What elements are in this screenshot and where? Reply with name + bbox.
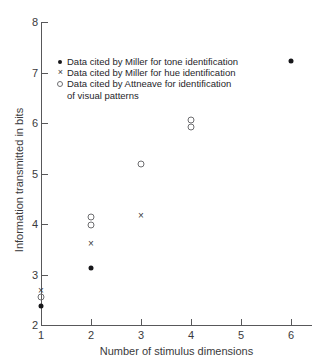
x-axis-title: Number of stimulus dimensions — [41, 345, 312, 357]
x-axis-line — [41, 325, 312, 326]
x-tick — [241, 319, 242, 325]
data-point-open-circle — [38, 294, 45, 301]
chart-legend: Data cited by Miller for tone identifica… — [57, 56, 238, 101]
x-tick-label: 2 — [81, 330, 101, 341]
y-tick — [42, 22, 48, 23]
y-tick-label: 8 — [8, 17, 38, 28]
data-point-cross — [87, 239, 96, 248]
scatter-chart-figure: 2345678 123456 Data cited by Miller for … — [0, 0, 319, 363]
x-tick-label: 6 — [281, 330, 301, 341]
data-point-open-circle — [88, 214, 95, 221]
legend-entry: Data cited by Attneave for identificatio… — [57, 78, 238, 89]
x-tick — [141, 319, 142, 325]
data-point-open-circle — [88, 222, 95, 229]
y-tick — [42, 73, 48, 74]
legend-marker-filled-circle-icon — [57, 56, 67, 67]
data-point-filled-circle — [39, 303, 44, 308]
legend-label-continuation: of visual patterns — [57, 90, 238, 101]
x-tick-label: 4 — [181, 330, 201, 341]
y-tick — [42, 325, 48, 326]
legend-label: Data cited by Miller for hue identificat… — [67, 67, 235, 78]
y-tick — [42, 174, 48, 175]
y-tick-label: 7 — [8, 68, 38, 79]
data-point-open-circle — [138, 161, 145, 168]
legend-label: Data cited by Miller for tone identifica… — [67, 56, 238, 67]
data-point-cross — [137, 211, 146, 220]
x-tick — [191, 319, 192, 325]
x-tick-label: 3 — [131, 330, 151, 341]
data-point-filled-circle — [89, 266, 94, 271]
y-tick — [42, 275, 48, 276]
legend-label: Data cited by Attneave for identificatio… — [67, 78, 231, 89]
x-tick-label: 5 — [231, 330, 251, 341]
data-point-open-circle — [188, 123, 195, 130]
x-tick-label: 1 — [31, 330, 51, 341]
x-tick — [41, 319, 42, 325]
data-point-filled-circle — [289, 59, 294, 64]
y-tick — [42, 224, 48, 225]
legend-marker-open-circle-icon — [57, 78, 67, 89]
x-tick — [91, 319, 92, 325]
legend-entry: Data cited by Miller for tone identifica… — [57, 56, 238, 67]
legend-marker-cross-icon: × — [57, 67, 67, 78]
x-tick — [291, 319, 292, 325]
y-tick — [42, 123, 48, 124]
y-axis-title: Information transmitted in bits — [13, 80, 25, 280]
legend-entry: ×Data cited by Miller for hue identifica… — [57, 67, 238, 78]
